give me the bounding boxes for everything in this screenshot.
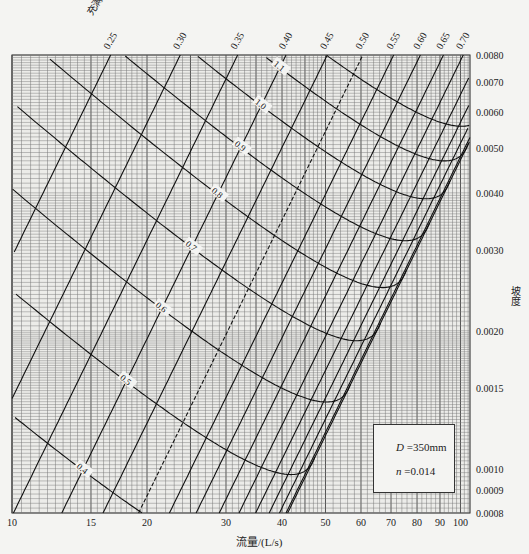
x-tick-label: 30 <box>221 517 231 528</box>
y-tick-label: 0.0008 <box>476 508 504 519</box>
parameter-legend: D =350mm n =0.014 <box>373 424 455 493</box>
x-tick-label: 70 <box>386 517 396 528</box>
y-tick-label: 0.0009 <box>476 485 504 496</box>
x-tick-label: 90 <box>435 517 445 528</box>
x-tick-label: 50 <box>320 517 330 528</box>
x-tick-label: 20 <box>142 517 152 528</box>
fullness-label: 0.30 <box>170 30 188 51</box>
fullness-label: 0.70 <box>453 30 471 51</box>
fullness-label: 0.45 <box>317 30 335 51</box>
fullness-label: 0.35 <box>228 30 246 51</box>
x-tick-label: 60 <box>356 517 366 528</box>
y-tick-label: 0.0050 <box>476 143 504 154</box>
y-tick-label: 0.0015 <box>476 383 504 394</box>
y-tick-label: 0.0020 <box>476 326 504 337</box>
x-axis-title: 流量/(L/s) <box>236 533 282 549</box>
y-axis-title: 坡度 <box>507 286 522 306</box>
y-tick-label: 0.0030 <box>476 245 504 256</box>
fullness-label: 0.25 <box>101 30 119 51</box>
y-tick-label: 0.0070 <box>476 77 504 88</box>
fullness-label: 0.40 <box>276 30 294 51</box>
x-tick-label: 40 <box>277 517 287 528</box>
x-tick-label: 80 <box>412 517 422 528</box>
fullness-label: 0.60 <box>411 30 429 51</box>
fullness-label: 0.55 <box>384 30 402 51</box>
y-tick-label: 0.0010 <box>476 464 504 475</box>
x-tick-label: 15 <box>86 517 96 528</box>
x-tick-label: 10 <box>7 517 17 528</box>
diameter-label: D =350mm <box>396 441 447 453</box>
fullness-label: 0.50 <box>353 30 371 51</box>
x-tick-label: 100 <box>453 517 468 528</box>
y-tick-label: 0.0080 <box>476 50 504 61</box>
y-tick-label: 0.0060 <box>476 107 504 118</box>
roughness-label: n =0.014 <box>396 465 435 477</box>
y-tick-label: 0.0040 <box>476 188 504 199</box>
fullness-label: 0.65 <box>434 30 452 51</box>
